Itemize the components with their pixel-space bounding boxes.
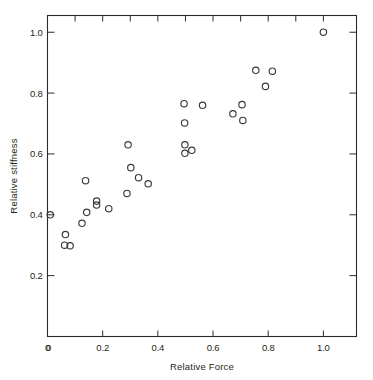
data-point <box>145 181 151 187</box>
data-point <box>82 178 88 184</box>
y-tick-label: 0.2 <box>30 270 43 281</box>
top-axis-ticks <box>75 16 323 22</box>
y-tick-label: 0.6 <box>30 148 43 159</box>
data-point <box>83 209 89 215</box>
data-point <box>181 101 187 107</box>
plot-canvas: 00.20.40.60.81.00 0.20.40.60.81.0 Relati… <box>0 0 373 380</box>
data-point <box>269 68 275 74</box>
data-point-series <box>47 29 327 249</box>
y-axis-ticks <box>48 32 55 275</box>
y-tick-label: 1.0 <box>30 27 43 38</box>
plot-frame <box>48 16 357 337</box>
x-axis-ticks <box>48 331 324 337</box>
x-tick-label: 1.0 <box>317 342 330 353</box>
data-point <box>253 67 259 73</box>
data-point <box>320 29 326 35</box>
data-point <box>230 111 236 117</box>
x-axis-tick-labels: 00.20.40.60.81.00 <box>45 342 330 353</box>
y-axis-tick-labels: 0.20.40.60.81.0 <box>30 27 43 281</box>
data-point <box>124 190 130 196</box>
data-point <box>106 206 112 212</box>
x-axis-title: Relative Force <box>170 361 234 372</box>
x-tick-label: 0.4 <box>152 342 165 353</box>
data-point <box>135 174 141 180</box>
x-tick-label: 0.6 <box>207 342 220 353</box>
data-point <box>240 117 246 123</box>
data-point <box>182 150 188 156</box>
data-point <box>62 231 68 237</box>
data-point <box>182 142 188 148</box>
right-axis-ticks <box>350 32 357 275</box>
x-tick-label: 0.2 <box>96 342 109 353</box>
scatter-plot-figure: 00.20.40.60.81.00 0.20.40.60.81.0 Relati… <box>0 0 373 380</box>
origin-label: 0 <box>46 342 51 353</box>
x-tick-label: 0.8 <box>262 342 275 353</box>
y-tick-label: 0.4 <box>30 209 43 220</box>
y-axis-title: Relative stiffness <box>8 138 19 213</box>
data-point <box>199 102 205 108</box>
data-point <box>239 101 245 107</box>
data-point <box>93 202 99 208</box>
data-point <box>262 83 268 89</box>
data-point <box>128 164 134 170</box>
data-point <box>79 220 85 226</box>
data-point <box>189 147 195 153</box>
data-point <box>125 142 131 148</box>
data-point <box>181 120 187 126</box>
y-tick-label: 0.8 <box>30 88 43 99</box>
